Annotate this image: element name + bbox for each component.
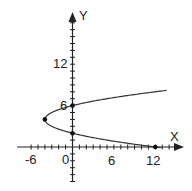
x-tick-label-12: 12: [146, 153, 160, 168]
y-axis-label: Y: [79, 8, 88, 23]
parabola-chart: Y X -6 0 6 12 6 12: [0, 0, 192, 191]
marked-point: [70, 103, 75, 108]
y-tick-label-6: 6: [60, 98, 67, 113]
x-axis-label: X: [170, 129, 179, 144]
y-tick-label-12: 12: [53, 56, 67, 71]
x-tick-label-0: 0: [62, 152, 69, 167]
marked-point: [153, 145, 158, 150]
x-tick-label-neg6: -6: [25, 152, 37, 167]
marked-point: [43, 117, 48, 122]
y-axis-arrow-icon: [69, 12, 77, 22]
marked-point: [70, 131, 75, 136]
x-tick-label-6: 6: [108, 153, 115, 168]
